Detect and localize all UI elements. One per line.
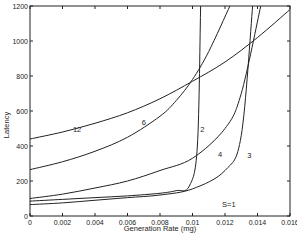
y-tick-label: 1000 <box>12 38 28 45</box>
x-tick-label: 0 <box>28 219 32 226</box>
curve-3 <box>30 6 253 205</box>
curve-label-3: 3 <box>247 151 251 160</box>
y-axis-label: Latency <box>2 112 11 139</box>
x-tick-label: 0.004 <box>86 219 104 226</box>
x-tick-label: 0.002 <box>54 219 72 226</box>
annotation-s1: S=1 <box>222 200 236 209</box>
y-tick-label: 800 <box>16 73 28 80</box>
y-tick-label: 600 <box>16 108 28 115</box>
chart: 020040060080010001200 00.0020.0040.0060.… <box>0 0 297 234</box>
curve-label-12: 12 <box>73 125 81 134</box>
curve-labels: 126423 <box>73 118 252 160</box>
x-tick-label: 0.014 <box>249 219 267 226</box>
y-tick-label: 1200 <box>12 3 28 10</box>
curve-2 <box>30 6 201 201</box>
x-tick-label: 0.012 <box>216 219 234 226</box>
curves <box>30 6 290 205</box>
x-axis-label: Generation Rate (mg) <box>124 224 197 233</box>
x-tick-label: 0.016 <box>281 219 297 226</box>
y-tick-label: 200 <box>16 178 28 185</box>
y-axis: 020040060080010001200 <box>12 3 290 220</box>
y-tick-label: 400 <box>16 143 28 150</box>
curve-label-2: 2 <box>200 125 204 134</box>
plot-area <box>30 6 290 216</box>
curve-label-6: 6 <box>142 118 146 127</box>
curve-label-4: 4 <box>218 150 222 159</box>
